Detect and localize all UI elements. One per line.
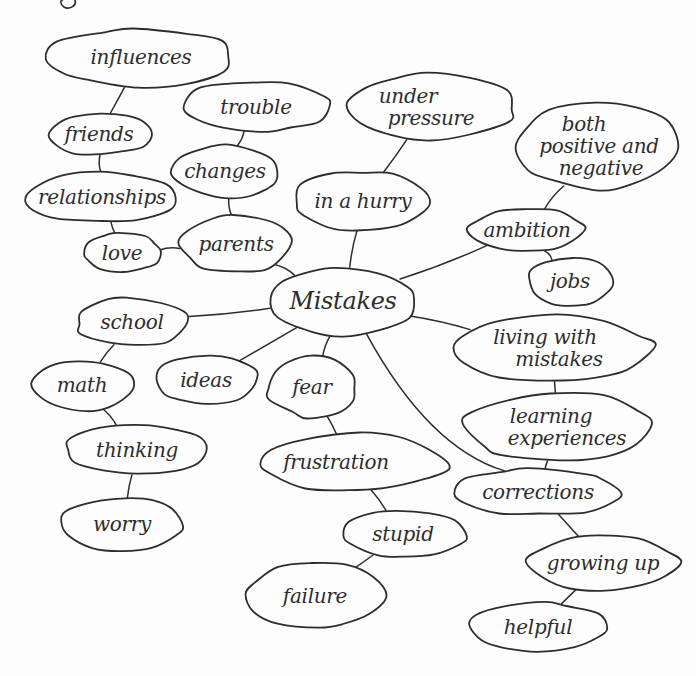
node-trouble-label: trouble xyxy=(220,95,291,119)
node-in-a-hurry: in a hurry xyxy=(296,172,430,230)
edge-changes--parents xyxy=(229,197,232,216)
node-both-positive-and-negative-label: positive and xyxy=(539,134,658,158)
edge-influences--friends xyxy=(110,86,125,114)
node-stupid-label: stupid xyxy=(372,522,433,546)
node-fear: fear xyxy=(267,356,355,419)
node-learning-experiences-label: experiences xyxy=(508,426,626,450)
node-ideas: ideas xyxy=(157,356,258,404)
edge-mistakes--school xyxy=(186,308,270,316)
node-love-label: love xyxy=(102,241,142,265)
node-trouble: trouble xyxy=(184,82,331,132)
node-influences: influences xyxy=(46,28,229,87)
edge-relationships--love xyxy=(111,222,115,234)
node-worry-label: worry xyxy=(93,512,152,536)
node-love: love xyxy=(84,233,161,272)
node-under-pressure-label: pressure xyxy=(388,106,475,130)
node-frustration: frustration xyxy=(260,432,450,490)
cropped-caption-remnant xyxy=(61,0,76,8)
edge-living-with-mistakes--learning-experiences xyxy=(554,380,555,393)
node-math: math xyxy=(31,361,134,411)
node-worry: worry xyxy=(61,498,183,551)
node-ambition-label: ambition xyxy=(483,218,570,242)
node-changes-label: changes xyxy=(184,159,266,183)
edge-thinking--worry xyxy=(127,475,132,498)
node-failure: failure xyxy=(246,563,387,628)
node-math-label: math xyxy=(57,373,108,397)
mindmap-figure: influencesfriendstroublechangesrelations… xyxy=(0,0,696,676)
edge-mistakes--ideas xyxy=(239,328,296,361)
node-jobs: jobs xyxy=(529,258,613,306)
node-changes: changes xyxy=(171,144,278,198)
node-school: school xyxy=(78,297,188,345)
node-friends-label: friends xyxy=(62,122,133,146)
node-relationships-label: relationships xyxy=(38,185,166,209)
node-stupid: stupid xyxy=(343,511,467,557)
mindmap-svg: influencesfriendstroublechangesrelations… xyxy=(0,0,696,676)
edge-parents--mistakes xyxy=(275,265,295,276)
node-fear-label: fear xyxy=(290,375,333,399)
edge-ambition--mistakes xyxy=(400,246,487,279)
edge-fear--frustration xyxy=(327,415,337,434)
edge-learning-experiences--corrections xyxy=(545,461,548,469)
node-parents: parents xyxy=(178,215,292,272)
node-thinking: thinking xyxy=(66,425,206,474)
edge-mistakes--fear xyxy=(323,335,331,358)
node-corrections: corrections xyxy=(454,468,621,514)
node-thinking-label: thinking xyxy=(96,438,178,462)
node-both-positive-and-negative-label: both xyxy=(562,112,607,136)
edge-friends--relationships xyxy=(99,155,101,172)
node-jobs-label: jobs xyxy=(546,269,590,293)
node-living-with-mistakes-label: living with xyxy=(493,325,597,349)
edge-mistakes--living-with-mistakes xyxy=(410,316,470,330)
edge-frustration--stupid xyxy=(371,489,387,511)
edge-math--thinking xyxy=(102,408,117,426)
edge-both-positive-and-negative--ambition xyxy=(545,186,564,209)
node-relationships: relationships xyxy=(25,172,176,222)
node-ideas-label: ideas xyxy=(180,368,232,392)
node-frustration-label: frustration xyxy=(281,450,389,474)
node-under-pressure: underpressure xyxy=(347,73,514,141)
node-helpful: helpful xyxy=(469,602,607,652)
edge-trouble--changes xyxy=(237,132,244,146)
node-growing-up-label: growing up xyxy=(547,551,660,575)
edge-in-a-hurry--mistakes xyxy=(350,230,357,267)
edge-growing-up--helpful xyxy=(562,588,578,603)
node-influences-label: influences xyxy=(91,45,192,69)
node-both-positive-and-negative-label: negative xyxy=(559,156,644,180)
node-both-positive-and-negative: bothpositive andnegative xyxy=(516,103,679,191)
node-growing-up: growing up xyxy=(526,535,682,590)
edge-ambition--jobs xyxy=(545,251,552,260)
node-learning-experiences-label: learning xyxy=(510,404,592,428)
node-friends: friends xyxy=(49,114,152,155)
node-ambition: ambition xyxy=(467,209,586,251)
node-learning-experiences: learningexperiences xyxy=(462,393,652,461)
node-failure-label: failure xyxy=(281,584,347,608)
node-helpful-label: helpful xyxy=(504,615,573,639)
node-under-pressure-label: under xyxy=(379,84,439,108)
node-mistakes: Mistakes xyxy=(270,268,414,337)
edge-under-pressure--in-a-hurry xyxy=(383,140,407,174)
edge-school--math xyxy=(100,345,114,362)
edge-love--parents xyxy=(160,248,180,250)
node-parents-label: parents xyxy=(198,232,273,256)
node-corrections-label: corrections xyxy=(482,480,594,504)
edge-corrections--growing-up xyxy=(558,514,579,537)
node-in-a-hurry-label: in a hurry xyxy=(314,189,412,213)
nodes-layer: influencesfriendstroublechangesrelations… xyxy=(25,28,681,651)
node-school-label: school xyxy=(100,310,163,334)
node-living-with-mistakes-label: mistakes xyxy=(515,347,602,371)
node-living-with-mistakes: living withmistakes xyxy=(453,314,655,380)
node-mistakes-label: Mistakes xyxy=(288,287,396,315)
